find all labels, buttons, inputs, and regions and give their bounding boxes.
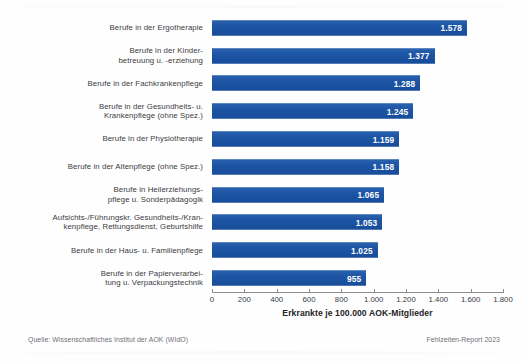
bar[interactable]: 1.158 (212, 159, 399, 174)
category-label: Berufe in Heilerziehungs- pflege u. Sond… (0, 185, 212, 204)
category-label: Berufe in der Kinder- betreuung u. -erzi… (0, 46, 212, 65)
scan-artifact-top (18, 5, 506, 8)
plot-area: Berufe in der Ergotherapie1.578Berufe in… (0, 14, 524, 292)
x-axis-tick-label: 1.800 (493, 295, 513, 304)
category-label: Berufe in der Ergotherapie (0, 23, 212, 32)
category-label: Aufsichts-/Führungskr. Gesundheits-/Kran… (0, 213, 212, 232)
bar-row: Berufe in der Fachkrankenpflege1.288 (0, 70, 524, 98)
chart-figure: Berufe in der Ergotherapie1.578Berufe in… (0, 0, 524, 362)
bar-track: 1.025 (212, 236, 524, 264)
x-axis-tick-labels: 02004006008001.0001.2001.4001.6001.800 (0, 293, 524, 307)
bar-track: 1.288 (212, 70, 524, 98)
source-note: Quelle: Wissenschaftliches Institut der … (28, 336, 188, 343)
bar-rows: Berufe in der Ergotherapie1.578Berufe in… (0, 14, 524, 292)
x-axis-tick-label: 800 (335, 295, 348, 304)
bar-track: 1.245 (212, 97, 524, 125)
bar-track: 1.159 (212, 125, 524, 153)
bar[interactable]: 1.065 (212, 187, 384, 202)
bar-track: 1.377 (212, 42, 524, 70)
x-axis-tick-label: 1.400 (429, 295, 449, 304)
bar-track: 1.158 (212, 153, 524, 181)
bar-value-label: 1.025 (351, 245, 378, 255)
category-label: Berufe in der Haus- u. Familienpflege (0, 246, 212, 255)
bar-track: 1.578 (212, 14, 524, 42)
bar[interactable]: 955 (212, 271, 366, 286)
category-label: Berufe in der Altenpflege (ohne Spez.) (0, 162, 212, 171)
bar[interactable]: 1.159 (212, 132, 399, 147)
x-axis-tick-label: 1.000 (364, 295, 384, 304)
bar-value-label: 1.578 (441, 23, 468, 33)
bar-value-label: 1.245 (387, 106, 414, 116)
bar-value-label: 1.158 (373, 162, 400, 172)
category-label: Berufe in der Gesundheits- u. Krankenpfl… (0, 102, 212, 121)
bar-value-label: 1.065 (358, 190, 385, 200)
x-axis-tick-label: 1.200 (396, 295, 416, 304)
scan-artifact-bottom (22, 351, 502, 354)
bar-track: 955 (212, 264, 524, 292)
bar[interactable]: 1.053 (212, 215, 382, 230)
bar-row: Berufe in der Papierverarbei- tung u. Ve… (0, 264, 524, 292)
bar-value-label: 1.159 (373, 134, 400, 144)
bar[interactable]: 1.245 (212, 104, 413, 119)
x-axis-tick-label: 0 (210, 295, 214, 304)
bar-row: Berufe in der Altenpflege (ohne Spez.)1.… (0, 153, 524, 181)
bar-row: Berufe in der Physiotherapie1.159 (0, 125, 524, 153)
figure-footer: Quelle: Wissenschaftliches Institut der … (0, 336, 524, 343)
bar[interactable]: 1.288 (212, 76, 420, 91)
bar-value-label: 1.053 (356, 217, 383, 227)
bar-row: Berufe in der Ergotherapie1.578 (0, 14, 524, 42)
category-label: Berufe in der Physiotherapie (0, 134, 212, 143)
x-axis-tick-label: 400 (270, 295, 283, 304)
category-label: Berufe in der Papierverarbei- tung u. Ve… (0, 269, 212, 288)
bar[interactable]: 1.377 (212, 48, 435, 63)
bar-track: 1.053 (212, 209, 524, 237)
category-label: Berufe in der Fachkrankenpflege (0, 79, 212, 88)
bar[interactable]: 1.578 (212, 20, 467, 35)
x-axis-title: Erkrankte je 100.000 AOK-Mitglieder (212, 308, 503, 318)
bar-row: Berufe in der Kinder- betreuung u. -erzi… (0, 42, 524, 70)
report-note: Fehlzeiten-Report 2023 (426, 336, 500, 343)
bar-track: 1.065 (212, 181, 524, 209)
bar[interactable]: 1.025 (212, 243, 378, 258)
bar-value-label: 1.288 (394, 78, 421, 88)
bar-value-label: 955 (347, 273, 366, 283)
bar-row: Berufe in der Gesundheits- u. Krankenpfl… (0, 97, 524, 125)
x-axis-tick-label: 1.600 (461, 295, 481, 304)
bar-row: Berufe in der Haus- u. Familienpflege1.0… (0, 236, 524, 264)
x-axis-tick-label: 600 (302, 295, 315, 304)
bar-value-label: 1.377 (408, 51, 435, 61)
x-axis-tick-label: 200 (238, 295, 251, 304)
bar-row: Aufsichts-/Führungskr. Gesundheits-/Kran… (0, 209, 524, 237)
bar-row: Berufe in Heilerziehungs- pflege u. Sond… (0, 181, 524, 209)
